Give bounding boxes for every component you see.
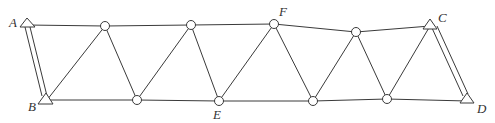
label-d: D <box>476 101 487 116</box>
truss-diagram: A B C D E F <box>0 0 495 123</box>
joint-top-4 <box>352 28 361 37</box>
bottom-chord <box>47 99 467 101</box>
joint-bottom-4 <box>383 95 392 104</box>
top-chord <box>27 24 430 32</box>
joint-bottom-1 <box>133 96 142 105</box>
label-e: E <box>212 107 221 122</box>
label-c: C <box>438 10 447 25</box>
joint-top-2 <box>187 21 196 30</box>
support-a-icon <box>20 18 35 27</box>
link-cd <box>432 26 468 96</box>
joint-f <box>270 20 279 29</box>
label-b: B <box>28 99 36 114</box>
link-ab <box>25 27 47 96</box>
joint-e <box>215 97 224 106</box>
web-members <box>47 24 430 101</box>
support-c-icon <box>423 19 437 29</box>
joint-top-1 <box>101 22 110 31</box>
label-f: F <box>278 4 288 19</box>
joint-bottom-3 <box>309 97 318 106</box>
label-a: A <box>8 15 17 30</box>
